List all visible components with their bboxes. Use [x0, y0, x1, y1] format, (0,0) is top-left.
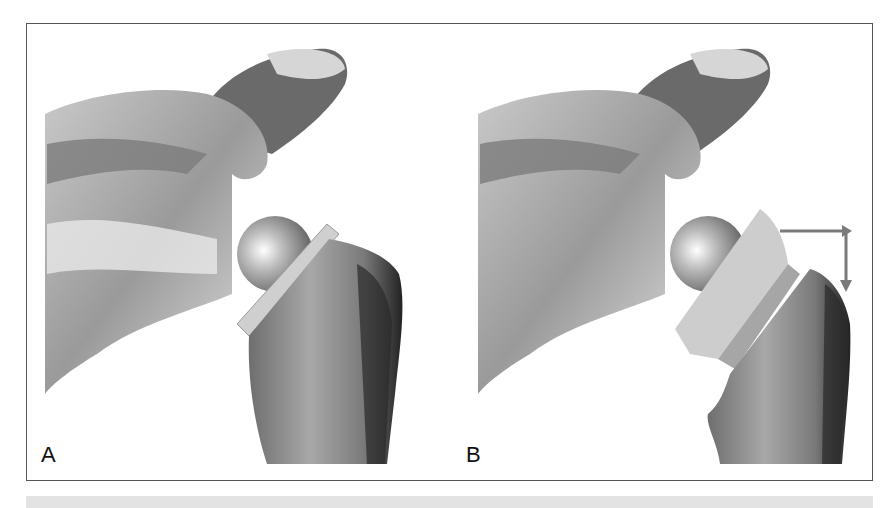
- panel-label-b: B: [466, 442, 481, 468]
- panel-label-a: A: [41, 442, 56, 468]
- figure-frame: A: [26, 23, 873, 481]
- caption-bar: [26, 496, 873, 508]
- shoulder-model-b: [450, 24, 873, 482]
- shoulder-model-a: [27, 24, 450, 482]
- panel-b: B: [450, 24, 873, 480]
- panel-a: A: [27, 24, 450, 480]
